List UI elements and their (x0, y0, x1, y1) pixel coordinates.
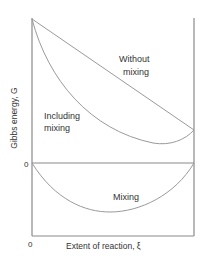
mixing-curve (32, 163, 194, 212)
y-zero-tick: 0 (24, 160, 29, 169)
including-mixing-label-line2: mixing (44, 123, 70, 133)
without-mixing-label-line2: mixing (123, 67, 149, 77)
gibbs-energy-chart: Without mixing Including mixing Mixing 0… (0, 0, 207, 262)
y-axis-title: Gibbs energy, G (9, 87, 19, 148)
mixing-label: Mixing (113, 192, 139, 202)
without-mixing-label-line1: Without (119, 54, 150, 64)
x-zero-tick: 0 (28, 240, 33, 249)
including-mixing-label-line1: Including (44, 111, 80, 121)
x-axis-title: Extent of reaction, ξ (66, 241, 141, 251)
